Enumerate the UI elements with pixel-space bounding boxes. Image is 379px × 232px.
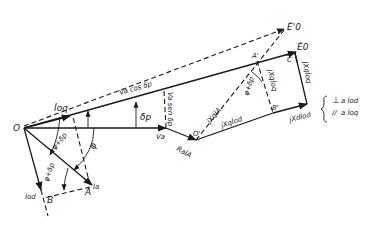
label-e0-prime: Ė'0 xyxy=(287,22,301,32)
label-jxq-ioq-inner: jXqİoq xyxy=(266,68,280,93)
e0-phasor xyxy=(24,52,296,128)
iod-phasor xyxy=(24,128,41,190)
label-iod: İod xyxy=(25,192,36,201)
legend-line2-symbol: // xyxy=(331,109,337,117)
legend-brace xyxy=(321,96,327,122)
va-sin-segment xyxy=(164,91,166,127)
label-phi-delta-outer: φ+δp xyxy=(50,131,69,151)
label-ioq: İoq xyxy=(54,103,68,113)
label-jxd-iod: jXdİod xyxy=(287,110,312,124)
label-delta-p: δp xyxy=(140,112,152,122)
label-ra-ia: RaİA xyxy=(175,144,194,160)
label-b-prime: B' xyxy=(272,104,279,112)
label-c: C xyxy=(287,56,292,64)
label-a-prime: A' xyxy=(251,52,259,60)
label-b: B xyxy=(47,195,53,205)
legend-line1-symbol: ⊥ xyxy=(332,95,340,105)
label-phi-delta-inner: φ+δp xyxy=(42,161,56,182)
label-va-sin: Va sen δp xyxy=(166,92,174,127)
legend-line1-text: a İod xyxy=(341,96,359,105)
label-va-cos: Va cos δp xyxy=(118,80,153,97)
label-o-prime: O' xyxy=(193,130,201,138)
ra-ia-phasor xyxy=(166,128,196,140)
a-ioq-line xyxy=(73,117,90,185)
phasor-diagram: O İoq Va cos δp Va sen δp δp V̇a RaİA O'… xyxy=(0,0,379,232)
label-a: A xyxy=(84,187,91,197)
label-e0: Ė0 xyxy=(297,42,309,52)
label-va: V̇a xyxy=(156,132,165,141)
legend-line2-text: a İoq xyxy=(341,108,359,117)
phi-plus-delta-arc-inner xyxy=(64,168,68,190)
label-o: O xyxy=(13,123,20,133)
label-phi: φ xyxy=(87,141,99,151)
label-ia: İa xyxy=(93,182,99,191)
label-jxq-ioq-right: jXqİoq xyxy=(301,60,314,85)
label-phi-delta-right: φ+δp xyxy=(242,75,256,96)
